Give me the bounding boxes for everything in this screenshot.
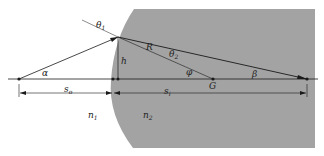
- label-R: R: [145, 42, 153, 52]
- label-G: G: [209, 81, 216, 91]
- object-point: [17, 77, 20, 80]
- label-so: so: [64, 84, 73, 95]
- label-alpha: α: [42, 68, 48, 78]
- label-beta: β: [251, 69, 257, 79]
- label-n1: n1: [88, 110, 98, 121]
- vertex-point: [112, 78, 115, 81]
- label-h: h: [121, 56, 127, 66]
- image-point: [305, 77, 308, 80]
- foot-point: [117, 78, 120, 81]
- refraction-diagram: θ1 R θ2 h α φ β G so si n1 n2: [0, 0, 324, 156]
- label-phi: φ: [186, 67, 193, 77]
- label-theta1: θ1: [96, 20, 105, 31]
- incident-ray-arrow-icon: [110, 37, 118, 42]
- incident-ray: [19, 37, 118, 79]
- so-arrow-left-icon: [20, 91, 26, 95]
